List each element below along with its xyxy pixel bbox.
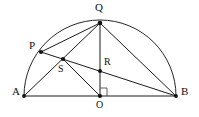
vertex-dot-p [39,50,43,54]
point-label-o: O [96,99,103,110]
vertex-dot-a [22,94,26,98]
point-label-p: P [29,40,35,51]
point-label-b: B [181,86,188,97]
point-label-s: S [58,63,64,74]
segment-chord-qb [100,23,176,96]
vertex-dot-r [98,69,102,73]
geometry-figure: A B O Q P R S [0,0,199,117]
vertex-dot-q [98,21,103,26]
point-label-a: A [12,86,20,97]
point-label-r: R [104,56,111,67]
point-label-q: Q [95,2,103,13]
segment-chord-qp [41,23,100,52]
vertex-dot-b [174,94,178,98]
vertex-dot-s [61,57,65,61]
segment-so [63,59,100,96]
vertex-dot-o [98,94,102,98]
